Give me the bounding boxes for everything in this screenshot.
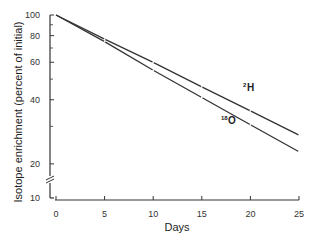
data-point-marker (298, 151, 300, 153)
data-point-marker (104, 41, 106, 43)
data-series: 2H18O (56, 15, 300, 153)
data-point-marker (298, 134, 300, 136)
x-tick-label: 5 (102, 209, 107, 219)
x-tick-label: 10 (148, 209, 158, 219)
x-axis: 0510152025 (53, 196, 304, 219)
y-axis-label: Isotope enrichment (percent of initial) (12, 22, 24, 203)
x-tick-label: 20 (245, 209, 255, 219)
x-tick-label: 25 (294, 209, 304, 219)
data-point-marker (152, 61, 154, 63)
series-line-18O (56, 15, 299, 152)
data-point-marker (201, 86, 203, 88)
y-tick-label: 40 (30, 95, 40, 105)
y-tick-label: 60 (30, 57, 40, 67)
series-label-2H: 2H (243, 82, 254, 93)
data-point-marker (250, 124, 252, 126)
x-tick-label: 0 (53, 209, 58, 219)
series-label-main: H (247, 82, 254, 93)
y-tick-label: 80 (30, 31, 40, 41)
x-axis-label: Days (164, 221, 190, 233)
series-line-2H (56, 15, 299, 135)
x-tick-label: 15 (197, 209, 207, 219)
y-tick-label: 20 (30, 159, 40, 169)
data-point-marker (201, 97, 203, 99)
series-label-main: O (228, 115, 236, 126)
y-axis: 1020406080100 (25, 10, 54, 203)
data-point-marker (250, 110, 252, 112)
data-point-marker (104, 38, 106, 40)
data-point-marker (152, 69, 154, 71)
y-tick-label: 100 (25, 10, 40, 20)
isotope-enrichment-chart: 1020406080100 0510152025 2H18O Isotope e… (0, 0, 310, 248)
axis-break-icon (46, 176, 54, 183)
y-tick-label: 10 (30, 193, 40, 203)
series-label-18O: 18O (221, 115, 236, 126)
